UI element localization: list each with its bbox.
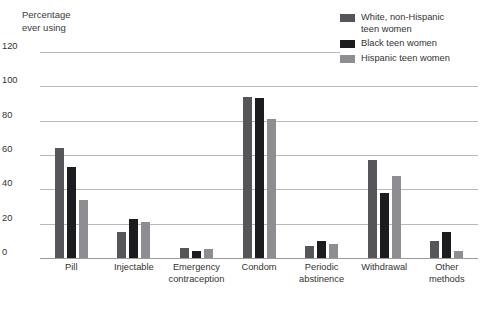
bar: [329, 244, 338, 258]
x-axis-labels: PillInjectableEmergency contraceptionCon…: [40, 262, 478, 285]
bar: [192, 251, 201, 258]
y-tick-label: 100: [2, 75, 36, 85]
bar: [141, 222, 150, 258]
legend-item-black: Black teen women: [340, 38, 485, 50]
x-tick-label: Injectable: [103, 262, 166, 285]
bar: [180, 248, 189, 258]
bar: [255, 98, 264, 258]
bar: [79, 200, 88, 258]
bar: [243, 97, 252, 258]
bar: [442, 232, 451, 258]
bar-group: [415, 52, 478, 258]
bar: [67, 167, 76, 258]
bar: [117, 232, 126, 258]
bar-group: [40, 52, 103, 258]
bar-groups: [40, 52, 478, 258]
bar-group: [228, 52, 291, 258]
bar: [55, 148, 64, 258]
bar-group: [353, 52, 416, 258]
bar-group: [290, 52, 353, 258]
y-axis-ticks: 020406080100120: [0, 52, 36, 258]
bar: [129, 219, 138, 258]
legend-swatch-black: [340, 40, 355, 48]
bar: [380, 193, 389, 258]
x-tick-label: Pill: [40, 262, 103, 285]
y-tick-label: 60: [2, 144, 36, 154]
legend-item-white-non-hispanic: White, non-Hispanic teen women: [340, 12, 485, 35]
x-tick-label: Emergency contraception: [165, 262, 228, 285]
bar: [430, 241, 439, 258]
bar: [454, 251, 463, 258]
bar-group: [103, 52, 166, 258]
x-tick-label: Condom: [228, 262, 291, 285]
bar-group: [165, 52, 228, 258]
y-axis-title: Percentage ever using: [22, 9, 71, 34]
x-tick-label: Withdrawal: [353, 262, 416, 285]
x-tick-label: Periodic abstinence: [290, 262, 353, 285]
y-tick-label: 40: [2, 178, 36, 188]
bar: [392, 176, 401, 258]
bar: [204, 249, 213, 258]
bar-chart: Percentage ever using White, non-Hispani…: [0, 0, 485, 314]
legend-swatch-white-non-hispanic: [340, 14, 355, 22]
y-tick-label: 20: [2, 213, 36, 223]
y-tick-label: 120: [2, 41, 36, 51]
bar: [267, 119, 276, 258]
legend-label-black: Black teen women: [361, 38, 437, 50]
bar: [305, 246, 314, 258]
bar: [368, 160, 377, 258]
y-tick-label: 80: [2, 110, 36, 120]
legend-label-white-non-hispanic: White, non-Hispanic teen women: [361, 12, 444, 35]
axis-baseline: [40, 258, 478, 259]
x-tick-label: Other methods: [415, 262, 478, 285]
bar: [317, 241, 326, 258]
y-tick-label: 0: [2, 247, 36, 257]
